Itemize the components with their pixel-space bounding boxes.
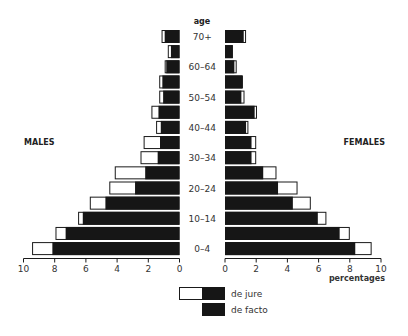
female-de-facto-bar — [225, 75, 242, 88]
male-de-facto-bar — [135, 182, 179, 195]
male-tick-label: 2 — [145, 264, 151, 274]
female-de-facto-bar — [225, 182, 278, 195]
legend-de-facto-label: de facto — [231, 305, 268, 315]
female-de-facto-bar — [225, 45, 233, 58]
axes-group: 00224466881010 — [18, 259, 387, 274]
age-group-label: 0–4 — [194, 244, 210, 254]
age-group-label: 20–24 — [189, 184, 217, 194]
age-group-label: 40–44 — [189, 123, 217, 133]
male-de-facto-bar — [145, 166, 179, 179]
male-de-facto-bar — [162, 75, 179, 88]
female-de-facto-bar — [225, 60, 234, 73]
male-de-facto-bar — [165, 30, 180, 43]
males-label: MALES — [24, 138, 55, 147]
female-de-facto-bar — [225, 166, 263, 179]
female-de-facto-bar — [225, 227, 340, 240]
females-label: FEMALES — [344, 138, 386, 147]
female-de-facto-bar — [225, 136, 252, 149]
male-de-facto-bar — [163, 91, 179, 104]
male-de-facto-bar — [171, 45, 180, 58]
age-group-label: 50–54 — [189, 93, 217, 103]
female-de-facto-bar — [225, 121, 246, 134]
female-de-facto-bar — [225, 151, 252, 164]
male-tick-label: 8 — [52, 264, 58, 274]
age-group-label: 60–64 — [189, 62, 217, 72]
age-group-label: 30–34 — [189, 153, 217, 163]
x-axis-title: percentages — [329, 274, 385, 283]
age-group-label: 70+ — [193, 32, 212, 42]
male-tick-label: 10 — [18, 264, 30, 274]
male-de-facto-bar — [166, 60, 179, 73]
female-tick-label: 0 — [222, 264, 228, 274]
female-tick-label: 4 — [285, 264, 291, 274]
legend: de jure de facto — [180, 287, 269, 316]
population-pyramid-chart: age MALES FEMALES 70+60–6450–5440–4430–3… — [0, 0, 408, 336]
male-tick-label: 6 — [83, 264, 89, 274]
female-de-facto-bar — [225, 30, 244, 43]
legend-de-jure-swatch-black — [202, 287, 225, 300]
female-de-facto-bar — [225, 106, 255, 119]
age-axis-title: age — [194, 17, 211, 26]
bars-group: 70+60–6450–5440–4430–3420–2410–140–4 — [33, 30, 372, 255]
male-de-facto-bar — [105, 197, 179, 210]
female-tick-label: 6 — [316, 264, 322, 274]
male-de-facto-bar — [158, 151, 180, 164]
female-tick-label: 8 — [347, 264, 353, 274]
female-de-facto-bar — [225, 212, 318, 225]
male-de-facto-bar — [83, 212, 180, 225]
legend-de-jure-swatch-white — [180, 288, 203, 300]
male-de-facto-bar — [158, 106, 179, 119]
female-de-facto-bar — [225, 242, 355, 255]
male-de-facto-bar — [161, 121, 180, 134]
age-group-label: 10–14 — [189, 214, 217, 224]
male-tick-label: 4 — [114, 264, 120, 274]
female-de-facto-bar — [225, 197, 293, 210]
male-tick-label: 0 — [177, 264, 183, 274]
female-tick-label: 10 — [375, 264, 387, 274]
legend-de-jure-label: de jure — [231, 289, 263, 299]
male-de-facto-bar — [160, 136, 180, 149]
female-tick-label: 2 — [253, 264, 259, 274]
female-de-facto-bar — [225, 91, 241, 104]
male-de-facto-bar — [52, 242, 179, 255]
legend-de-facto-swatch — [202, 303, 225, 316]
male-de-facto-bar — [66, 227, 180, 240]
